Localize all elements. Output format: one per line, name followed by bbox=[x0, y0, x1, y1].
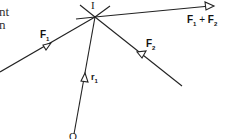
point-i-label: I bbox=[91, 0, 95, 11]
r1-label: r1 bbox=[91, 73, 98, 84]
f1-arrowhead-icon bbox=[43, 43, 51, 50]
r1-arrowhead-icon bbox=[81, 73, 88, 82]
sum-arrowhead-icon bbox=[205, 2, 214, 10]
f1-label: F1 bbox=[40, 30, 49, 42]
point-o-label: O bbox=[69, 131, 77, 139]
f2-label: F2 bbox=[146, 39, 155, 51]
f1-plus-f2-label: F1 + F2 bbox=[187, 15, 217, 27]
